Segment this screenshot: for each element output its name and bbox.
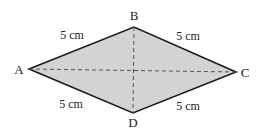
vertex-label-d: D (128, 115, 137, 130)
side-length-dc: 5 cm (176, 99, 200, 113)
side-length-bc: 5 cm (176, 29, 200, 43)
side-length-ab: 5 cm (60, 28, 84, 42)
rhombus-diagram: A B C D 5 cm 5 cm 5 cm 5 cm (0, 0, 261, 131)
vertex-label-c: C (241, 65, 250, 80)
vertex-label-b: B (130, 8, 139, 23)
side-length-ad: 5 cm (59, 97, 83, 111)
vertex-label-a: A (14, 62, 24, 77)
